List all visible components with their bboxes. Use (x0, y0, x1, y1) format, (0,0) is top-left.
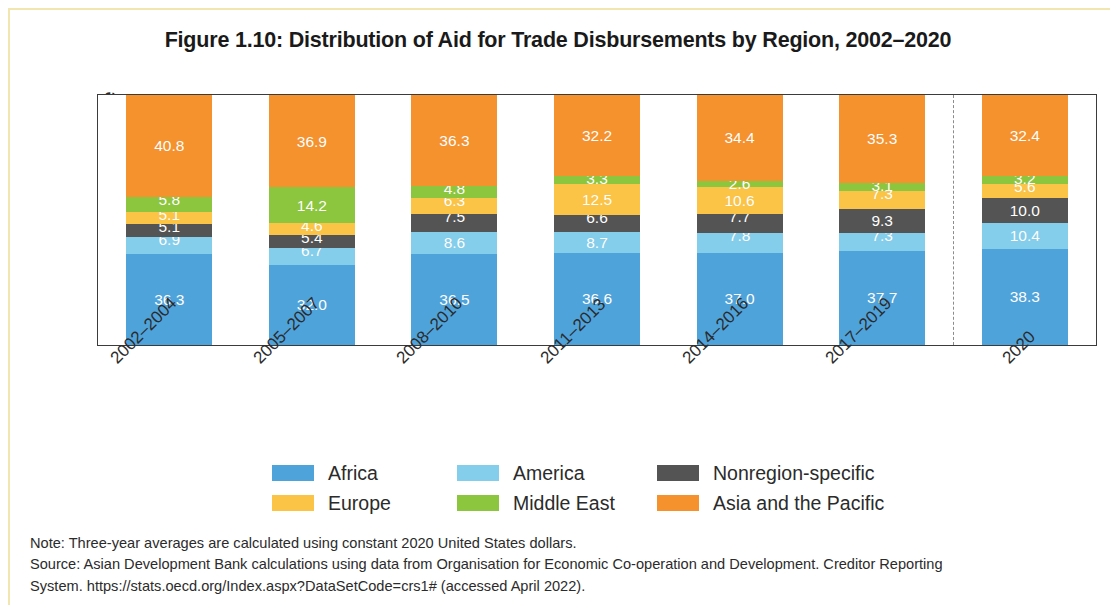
bar-segment-asia-and-the-pacific[interactable]: 32.4 (982, 95, 1068, 176)
bar-segment-nonregion-specific[interactable]: 7.5 (411, 214, 497, 233)
legend-swatch (457, 465, 499, 481)
legend-swatch (272, 495, 314, 511)
bar-column[interactable]: 38.310.410.05.63.232.4 (953, 95, 1096, 345)
x-tick-slot: 2002–2004 (97, 348, 240, 448)
legend-swatch (457, 495, 499, 511)
bar-segment-asia-and-the-pacific[interactable]: 34.4 (697, 95, 783, 181)
bar-segment-middle-east[interactable]: 14.2 (269, 187, 355, 223)
bar-segment-nonregion-specific[interactable]: 7.7 (697, 214, 783, 233)
legend-label: Africa (328, 462, 378, 485)
bar-segment-middle-east[interactable]: 3.3 (554, 176, 640, 184)
x-axis-ticks: 2002–20042005–20072008–20102011–20132014… (97, 348, 1097, 448)
legend-swatch (272, 465, 314, 481)
legend-item-nonregion-specific[interactable]: Nonregion-specific (657, 462, 967, 485)
bar-segment-middle-east[interactable]: 4.8 (411, 186, 497, 198)
segment-value-label: 10.4 (1010, 228, 1040, 244)
bar-segment-middle-east[interactable]: 5.8 (126, 197, 212, 212)
bar-segment-asia-and-the-pacific[interactable]: 32.2 (554, 95, 640, 176)
figure-title: Figure 1.10: Distribution of Aid for Tra… (0, 28, 1116, 53)
x-tick-slot: 2017–2019 (811, 348, 954, 448)
bar-segment-america[interactable]: 8.6 (411, 232, 497, 254)
x-tick-slot: 2005–2007 (240, 348, 383, 448)
source-line-continued: System. https://stats.oecd.org/Index.asp… (30, 576, 1105, 597)
segment-value-label: 10.6 (725, 193, 755, 209)
bar-segment-middle-east[interactable]: 3.2 (982, 176, 1068, 184)
x-tick-slot: 2008–2010 (383, 348, 526, 448)
bar-segment-america[interactable]: 10.4 (982, 223, 1068, 249)
bar-segment-asia-and-the-pacific[interactable]: 35.3 (839, 95, 925, 183)
source-line: Source: Asian Development Bank calculati… (30, 554, 1105, 575)
legend-swatch (657, 465, 699, 481)
bar-segment-nonregion-specific[interactable]: 5.1 (126, 224, 212, 237)
bar-segment-nonregion-specific[interactable]: 5.4 (269, 235, 355, 249)
legend: AfricaAmericaNonregion-specificEuropeMid… (272, 458, 972, 518)
x-tick-slot: 2011–2013 (526, 348, 669, 448)
legend-label: Nonregion-specific (713, 462, 875, 485)
bar-segment-europe[interactable]: 12.5 (554, 184, 640, 215)
segment-value-label: 36.9 (297, 134, 327, 150)
x-tick-slot: 2014–2016 (668, 348, 811, 448)
legend-item-america[interactable]: America (457, 462, 657, 485)
legend-item-europe[interactable]: Europe (272, 492, 457, 515)
legend-label: Europe (328, 492, 391, 515)
segment-value-label: 40.8 (154, 138, 184, 154)
segment-value-label: 8.6 (444, 235, 466, 251)
bar-segment-america[interactable]: 8.7 (554, 232, 640, 254)
segment-value-label: 32.2 (582, 128, 612, 144)
x-tick-slot: 2020 (954, 348, 1097, 448)
segment-value-label: 38.3 (1010, 289, 1040, 305)
legend-label: Asia and the Pacific (713, 492, 884, 515)
bar-segment-nonregion-specific[interactable]: 10.0 (982, 198, 1068, 223)
segment-value-label: 8.7 (586, 235, 608, 251)
figure-notes: Note: Three-year averages are calculated… (30, 533, 1105, 597)
segment-value-label: 10.0 (1010, 203, 1040, 219)
bar-segment-asia-and-the-pacific[interactable]: 36.3 (411, 95, 497, 186)
bar-segment-europe[interactable]: 4.6 (269, 223, 355, 235)
bar-segment-nonregion-specific[interactable]: 9.3 (839, 209, 925, 232)
segment-value-label: 32.4 (1010, 128, 1040, 144)
bar-segment-america[interactable]: 6.7 (269, 248, 355, 265)
bar-segment-europe[interactable]: 5.1 (126, 212, 212, 225)
segment-value-label: 35.3 (867, 131, 897, 147)
bar-segment-middle-east[interactable]: 2.6 (697, 181, 783, 187)
bar-segment-asia-and-the-pacific[interactable]: 36.9 (269, 95, 355, 187)
legend-item-asia-and-the-pacific[interactable]: Asia and the Pacific (657, 492, 967, 515)
segment-value-label: 9.3 (871, 213, 893, 229)
bar-segment-asia-and-the-pacific[interactable]: 40.8 (126, 95, 212, 197)
legend-item-africa[interactable]: Africa (272, 462, 457, 485)
legend-item-middle-east[interactable]: Middle East (457, 492, 657, 515)
bar-segment-europe[interactable]: 6.3 (411, 198, 497, 214)
legend-label: Middle East (513, 492, 615, 515)
bar-segment-america[interactable]: 6.9 (126, 237, 212, 254)
bar-segment-america[interactable]: 7.8 (697, 233, 783, 252)
segment-value-label: 36.3 (439, 133, 469, 149)
legend-swatch (657, 495, 699, 511)
segment-value-label: 14.2 (297, 198, 327, 214)
legend-label: America (513, 462, 585, 485)
note-line: Note: Three-year averages are calculated… (30, 533, 1105, 554)
year-divider-line (953, 95, 954, 345)
bar-segment-middle-east[interactable]: 3.1 (839, 183, 925, 191)
bar-segment-america[interactable]: 7.3 (839, 233, 925, 251)
segment-value-label: 34.4 (725, 130, 755, 146)
stacked-bar[interactable]: 38.310.410.05.63.232.4 (982, 95, 1068, 345)
segment-value-label: 12.5 (582, 192, 612, 208)
bar-segment-nonregion-specific[interactable]: 6.6 (554, 215, 640, 232)
